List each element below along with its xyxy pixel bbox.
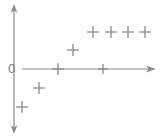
data-point-marker [122, 26, 134, 38]
x-axis [22, 65, 156, 72]
chart-canvas: 0 [0, 0, 164, 140]
data-point-marker [33, 82, 45, 94]
data-point-marker [67, 44, 79, 56]
data-point-marker [16, 101, 28, 113]
data-point-marker [87, 26, 99, 38]
data-point-marker [52, 63, 64, 75]
data-point-marker [139, 26, 151, 38]
origin-label: 0 [8, 62, 15, 75]
scatter-plot-svg [0, 0, 164, 140]
data-point-marker [105, 26, 117, 38]
data-point-marker [98, 64, 108, 74]
